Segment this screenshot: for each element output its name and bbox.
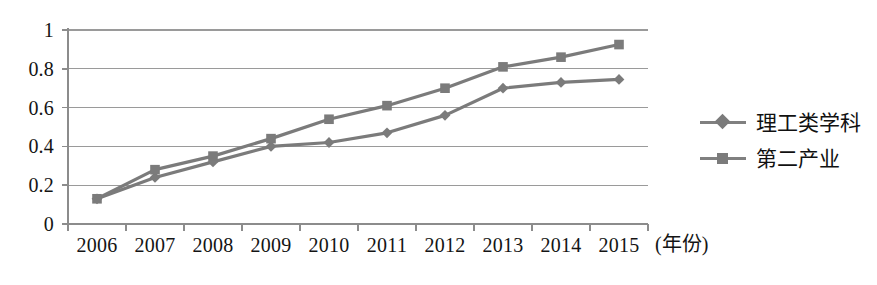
y-tick-label: 0.2 <box>8 175 54 195</box>
series-line-0 <box>97 79 619 198</box>
data-point-diamond <box>498 83 509 94</box>
data-point-square <box>150 165 160 175</box>
legend-square-marker-icon <box>700 149 746 169</box>
legend-item-0[interactable]: 理工类学科 <box>700 105 875 141</box>
x-tick-label-2007: 2007 <box>123 234 187 256</box>
data-point-square <box>208 151 218 161</box>
series-line-1 <box>97 45 619 199</box>
data-point-square <box>92 194 102 204</box>
data-point-square <box>556 52 566 62</box>
series-layer <box>92 40 625 204</box>
data-point-square <box>266 134 276 144</box>
legend-label-1: 第二产业 <box>746 147 840 171</box>
data-point-square <box>440 83 450 93</box>
x-tick-marks <box>68 224 648 231</box>
chart-figure: 1 0.8 0.6 0.4 0.2 0 2006 2007 2008 2009 … <box>0 0 877 285</box>
x-tick-label-2014: 2014 <box>529 234 593 256</box>
x-tick-label-2013: 2013 <box>471 234 535 256</box>
y-tick-label: 0.6 <box>8 98 54 118</box>
y-tick-label: 0 <box>8 214 54 234</box>
legend-item-1[interactable]: 第二产业 <box>700 141 875 177</box>
data-point-diamond <box>614 74 625 85</box>
data-point-square <box>614 40 624 50</box>
x-tick-label-2010: 2010 <box>297 234 361 256</box>
data-point-diamond <box>382 127 393 138</box>
y-tick-label: 0.8 <box>8 59 54 79</box>
x-tick-label-2012: 2012 <box>413 234 477 256</box>
data-point-square <box>324 114 334 124</box>
data-point-diamond <box>556 77 567 88</box>
x-axis-title: (年份) <box>655 233 708 255</box>
legend-label-0: 理工类学科 <box>746 111 861 135</box>
x-tick-label-2006: 2006 <box>65 234 129 256</box>
data-point-square <box>498 62 508 72</box>
data-point-square <box>382 101 392 111</box>
chart-legend: 理工类学科 第二产业 <box>700 105 875 177</box>
y-tick-label: 1 <box>8 20 54 40</box>
x-tick-label-2008: 2008 <box>181 234 245 256</box>
y-tick-marks <box>62 30 68 224</box>
x-tick-label-2011: 2011 <box>355 234 419 256</box>
data-point-diamond <box>440 110 451 121</box>
y-tick-label: 0.4 <box>8 136 54 156</box>
legend-diamond-marker-icon <box>700 113 746 133</box>
x-tick-label-2009: 2009 <box>239 234 303 256</box>
x-tick-label-2015: 2015 <box>587 234 651 256</box>
